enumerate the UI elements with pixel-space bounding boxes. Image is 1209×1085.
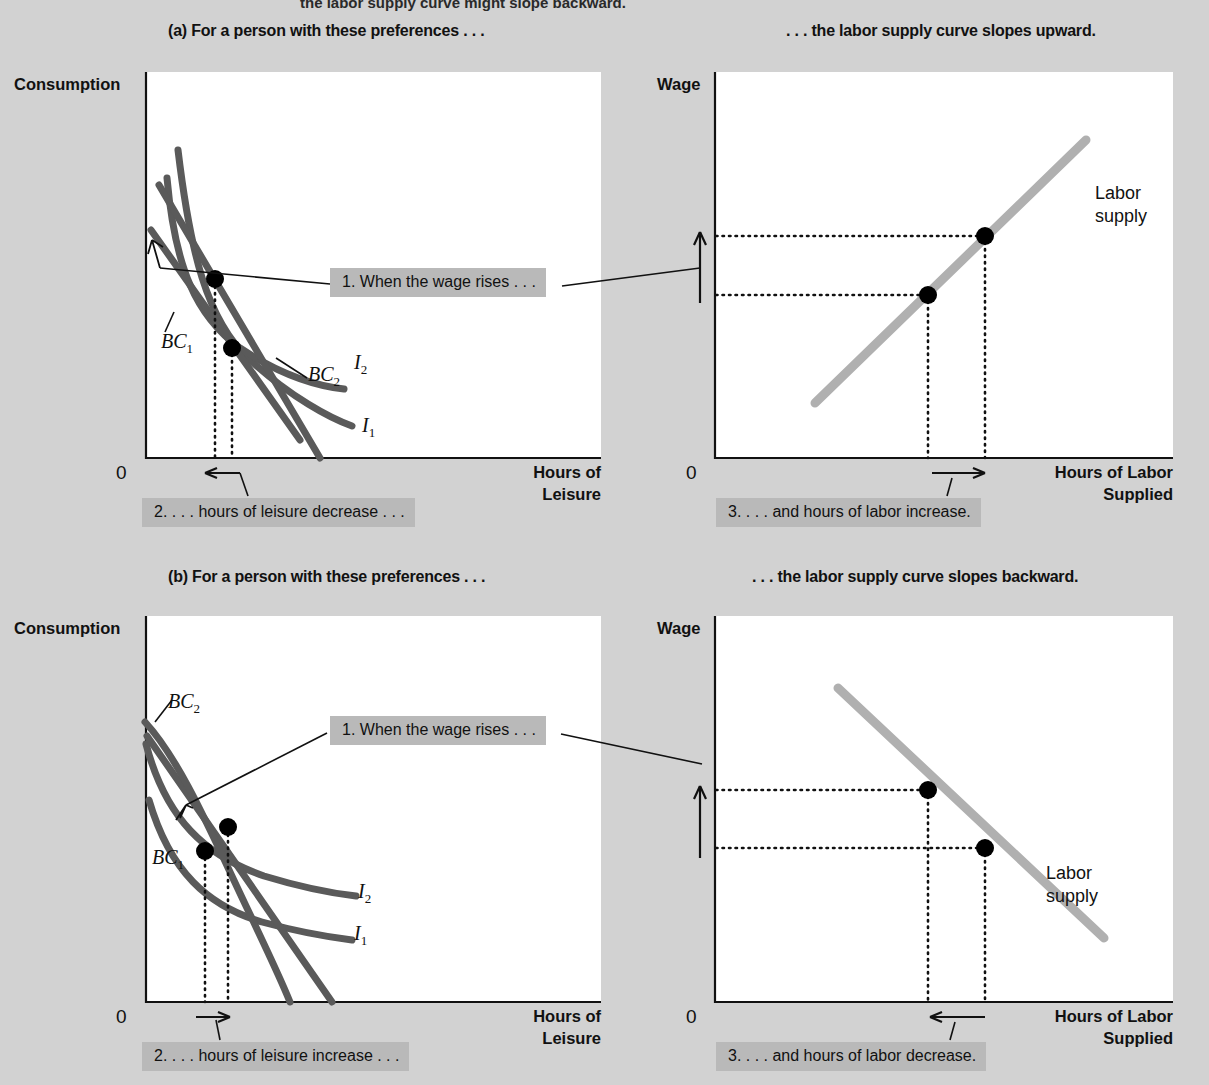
panel-b-right-point-initial: [976, 839, 994, 857]
panel-b-callout-step3: 3. . . . and hours of labor decrease.: [716, 1042, 986, 1071]
panel-b-right-point-new: [919, 781, 937, 799]
panel-b-supply-line1: Labor: [1046, 862, 1098, 885]
panel-b-supply-line2: supply: [1046, 885, 1098, 908]
panel-b-right-axes: [715, 616, 1173, 1002]
panel-b-right-supply-label: Labor supply: [1046, 862, 1098, 908]
panel-b-step3-leader: [950, 1022, 955, 1040]
panel-b-right-graphics: [0, 0, 1209, 1085]
figure-canvas: the labor supply curve might slope backw…: [0, 0, 1209, 1085]
